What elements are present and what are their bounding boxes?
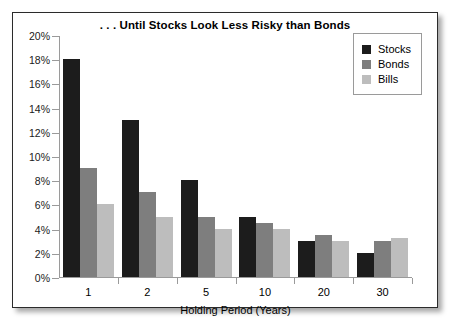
y-axis-tick [52, 133, 59, 134]
bar-bills-1[interactable] [97, 204, 114, 277]
y-axis-tick [52, 278, 59, 279]
x-axis-label-2: 2 [144, 286, 150, 298]
bar-bills-20[interactable] [332, 241, 349, 277]
bar-group-10 [239, 35, 290, 277]
legend-item-bonds[interactable]: Bonds [362, 58, 411, 70]
bar-bonds-2[interactable] [139, 192, 156, 277]
bar-group-20 [298, 35, 349, 277]
y-axis-line [59, 36, 60, 278]
x-axis-tick [177, 278, 178, 284]
bar-bills-30[interactable] [391, 238, 408, 277]
y-axis-tick [52, 60, 59, 61]
legend-swatch-bonds [362, 60, 371, 69]
legend-item-stocks[interactable]: Stocks [362, 43, 411, 55]
y-axis-label: 20% [29, 30, 50, 42]
y-axis-tick [52, 205, 59, 206]
y-axis-label: 16% [29, 78, 50, 90]
bar-group-5 [181, 35, 232, 277]
y-axis-tick [52, 36, 59, 37]
bar-stocks-20[interactable] [298, 241, 315, 277]
bar-group-1 [63, 35, 114, 277]
bar-bonds-1[interactable] [80, 168, 97, 277]
y-axis-label: 2% [35, 248, 50, 260]
legend-label-bonds: Bonds [378, 58, 409, 70]
x-axis-tick [294, 278, 295, 284]
bar-bonds-20[interactable] [315, 235, 332, 277]
x-axis-tick [236, 278, 237, 284]
x-axis-label-1: 1 [85, 286, 91, 298]
legend-label-stocks: Stocks [378, 43, 411, 55]
x-axis-title: Holding Period (Years) [59, 304, 412, 316]
chart-legend: StocksBondsBills [353, 33, 422, 95]
y-axis-tick [52, 181, 59, 182]
x-axis-label-20: 20 [318, 286, 330, 298]
x-axis-label-5: 5 [203, 286, 209, 298]
y-axis-label: 0% [35, 272, 50, 284]
bar-bills-5[interactable] [215, 229, 232, 277]
y-axis-label: 10% [29, 151, 50, 163]
legend-label-bills: Bills [378, 73, 398, 85]
chart-frame: . . . Until Stocks Look Less Risky than … [12, 12, 438, 308]
bar-stocks-2[interactable] [122, 120, 139, 277]
bar-stocks-5[interactable] [181, 180, 198, 277]
y-axis-label: 8% [35, 175, 50, 187]
y-axis-label: 18% [29, 54, 50, 66]
bar-bonds-5[interactable] [198, 217, 215, 278]
y-axis-label: 14% [29, 103, 50, 115]
y-axis-tick [52, 84, 59, 85]
chart-title: . . . Until Stocks Look Less Risky than … [13, 19, 437, 31]
y-axis-tick [52, 254, 59, 255]
x-axis-tick [353, 278, 354, 284]
legend-item-bills[interactable]: Bills [362, 73, 411, 85]
x-axis-label-30: 30 [376, 286, 388, 298]
bar-stocks-1[interactable] [63, 59, 80, 277]
y-axis-tick [52, 157, 59, 158]
bar-group-2 [122, 35, 173, 277]
y-axis-tick [52, 109, 59, 110]
x-axis-tick [412, 278, 413, 284]
bar-bonds-10[interactable] [256, 223, 273, 277]
x-axis-tick [118, 278, 119, 284]
legend-swatch-stocks [362, 45, 371, 54]
y-axis-label: 4% [35, 224, 50, 236]
y-axis-label: 6% [35, 199, 50, 211]
x-axis-label-10: 10 [259, 286, 271, 298]
y-axis-label: 12% [29, 127, 50, 139]
bar-bonds-30[interactable] [374, 241, 391, 277]
bar-stocks-30[interactable] [357, 253, 374, 277]
bar-bills-10[interactable] [273, 229, 290, 277]
legend-swatch-bills [362, 75, 371, 84]
bar-bills-2[interactable] [156, 217, 173, 278]
y-axis-tick [52, 230, 59, 231]
bar-stocks-10[interactable] [239, 217, 256, 278]
